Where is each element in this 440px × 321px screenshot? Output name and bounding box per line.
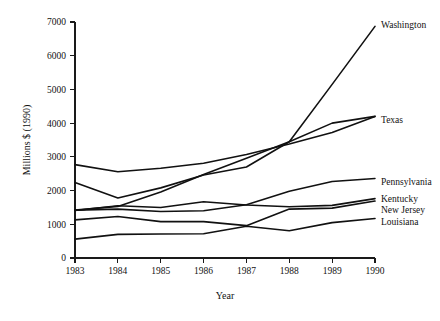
series-group <box>75 26 375 239</box>
series-label-texas: Texas <box>381 115 403 125</box>
x-tick-label-1986: 1986 <box>194 266 213 276</box>
x-tick-label-1990: 1990 <box>366 266 385 276</box>
x-tick-label-1985: 1985 <box>151 266 170 276</box>
series-line-louisiana <box>75 219 375 240</box>
y-tick-label-6000: 6000 <box>47 51 66 61</box>
y-tick-label-7000: 7000 <box>47 17 66 27</box>
x-tick-label-1987: 1987 <box>237 266 256 276</box>
x-axis: 19831984198519861987198819891990 <box>66 258 385 276</box>
series-line-texas <box>75 116 375 198</box>
line-chart: 01000200030004000500060007000 1983198419… <box>0 0 440 321</box>
series-label-pennsylvania: Pennsylvania <box>381 177 432 187</box>
y-tick-label-3000: 3000 <box>47 152 66 162</box>
y-tick-group: 01000200030004000500060007000 <box>47 17 75 263</box>
series-label-kentucky: Kentucky <box>381 194 418 204</box>
y-tick-label-0: 0 <box>61 253 66 263</box>
y-tick-label-4000: 4000 <box>47 119 66 129</box>
x-tick-label-1983: 1983 <box>66 266 85 276</box>
y-tick-label-1000: 1000 <box>47 220 66 230</box>
series-label-washington: Washington <box>381 20 426 30</box>
x-tick-group: 19831984198519861987198819891990 <box>66 258 385 276</box>
x-tick-label-1984: 1984 <box>108 266 127 276</box>
series-label-new-jersey: New Jersey <box>381 205 425 215</box>
series-label-group: WashingtonTexasPennsylvaniaKentuckyNew J… <box>381 20 432 227</box>
y-tick-label-5000: 5000 <box>47 85 66 95</box>
y-axis: 01000200030004000500060007000 <box>47 17 75 263</box>
series-label-louisiana: Louisiana <box>381 217 419 227</box>
x-axis-title: Year <box>216 290 235 301</box>
chart-canvas: 01000200030004000500060007000 1983198419… <box>0 0 440 321</box>
x-tick-label-1989: 1989 <box>323 266 342 276</box>
y-axis-title: Millions $ (1990) <box>21 105 33 176</box>
x-tick-label-1988: 1988 <box>280 266 299 276</box>
y-tick-label-2000: 2000 <box>47 186 66 196</box>
